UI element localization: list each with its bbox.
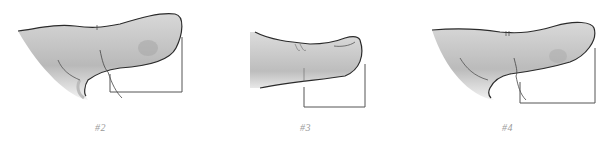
thumb-4-illustration [410, 0, 610, 142]
thumb-2-illustration [0, 0, 200, 142]
thumb-3-illustration [200, 0, 400, 142]
figure-label: #4 [502, 122, 513, 133]
figure-label: #3 [300, 122, 311, 133]
figure-3: #3 [200, 0, 400, 142]
figure-2: #2 [0, 0, 200, 142]
figure-label: #2 [95, 122, 106, 133]
figure-4: #4 [410, 0, 610, 142]
